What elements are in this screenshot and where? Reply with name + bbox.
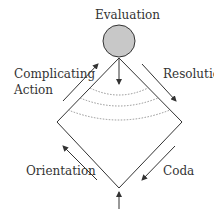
label-resolution: Resolution [163,67,214,82]
dotted-arc-2 [80,98,158,106]
dotted-arc-1 [90,88,148,95]
label-action: Action [14,83,53,98]
label-evaluation: Evaluation [95,8,160,23]
label-orientation: Orientation [26,164,96,179]
evaluation-circle [103,25,135,57]
label-complicating: Complicating [14,67,95,82]
label-coda: Coda [163,164,194,179]
diagram-canvas [0,0,214,223]
dotted-arc-3 [68,110,170,120]
